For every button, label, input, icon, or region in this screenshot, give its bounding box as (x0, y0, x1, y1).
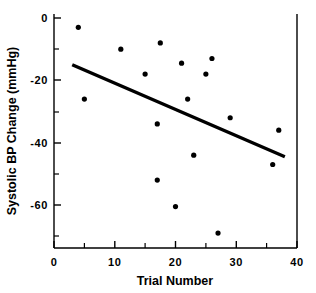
axes-lines (54, 14, 297, 248)
data-point (118, 47, 123, 52)
y-tick-label-0: 0 (41, 12, 48, 24)
x-axis-major-ticks (54, 241, 297, 248)
data-point (143, 72, 148, 77)
data-point (76, 25, 81, 30)
x-tick-label-30: 30 (230, 256, 243, 268)
data-point (203, 72, 208, 77)
data-point (185, 96, 190, 101)
data-point (158, 40, 163, 45)
data-point (276, 128, 281, 133)
y-tick-label-minus40: -40 (30, 137, 48, 149)
scatter-plot-figure: 0 10 20 30 40 0 -20 -40 -60 Trial Number… (0, 0, 316, 293)
data-point (155, 177, 160, 182)
y-axis-title: Systolic BP Change (mmHg) (5, 47, 19, 216)
data-point (179, 61, 184, 66)
x-axis-title: Trial Number (137, 274, 214, 288)
data-point (191, 153, 196, 158)
regression-line (72, 65, 285, 157)
x-tick-label-20: 20 (169, 256, 182, 268)
data-point (209, 56, 214, 61)
data-point (82, 96, 87, 101)
data-point (270, 162, 275, 167)
plot-canvas: 0 10 20 30 40 0 -20 -40 -60 Trial Number… (0, 0, 316, 293)
y-tick-label-minus60: -60 (30, 199, 48, 211)
data-point-group (76, 25, 282, 236)
y-tick-label-minus20: -20 (30, 74, 48, 86)
x-tick-label-0: 0 (51, 256, 58, 268)
x-tick-label-10: 10 (108, 256, 121, 268)
data-point (215, 230, 220, 235)
data-point (173, 204, 178, 209)
data-point (155, 121, 160, 126)
x-tick-label-40: 40 (290, 256, 303, 268)
data-point (228, 115, 233, 120)
